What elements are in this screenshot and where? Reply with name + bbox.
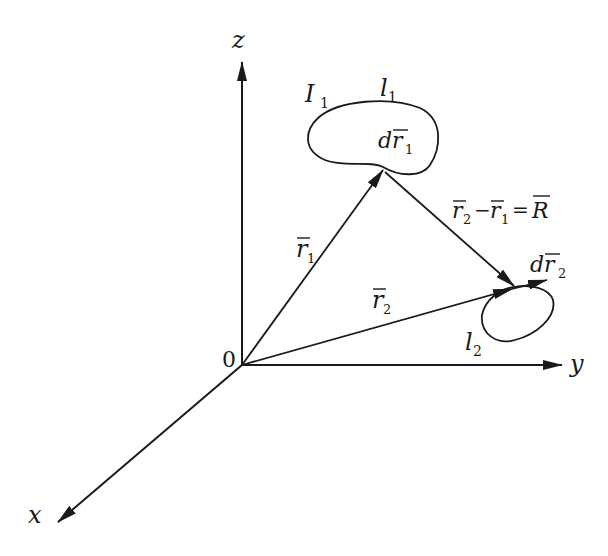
x-axis-label: x <box>28 501 42 529</box>
svg-text:1: 1 <box>501 212 509 227</box>
origin-label: 0 <box>222 347 236 372</box>
svg-text:l: l <box>380 74 388 102</box>
svg-text:dr: dr <box>530 252 556 277</box>
svg-text:=: = <box>512 198 529 222</box>
dr2-label: dr 2 <box>530 252 566 281</box>
r1-label: r 1 <box>296 235 315 266</box>
svg-text:R: R <box>531 198 549 223</box>
svg-text:2: 2 <box>558 266 566 281</box>
contour-l1-label: l 1 <box>380 74 397 105</box>
R-vector <box>385 172 514 286</box>
svg-text:2: 2 <box>383 302 391 317</box>
contour-l2-label: l 2 <box>465 328 482 359</box>
dr2-arrow <box>512 280 547 289</box>
svg-text:1: 1 <box>320 95 329 111</box>
z-axis-label: z <box>231 26 245 54</box>
svg-text:2: 2 <box>473 343 482 359</box>
svg-text:1: 1 <box>307 251 315 266</box>
dr1-label: dr 1 <box>378 128 413 157</box>
R-equation-label: r 2 − r 1 = R <box>452 196 550 227</box>
svg-text:1: 1 <box>388 89 397 105</box>
x-axis <box>58 365 242 522</box>
svg-text:−: − <box>474 198 491 222</box>
y-axis-label: y <box>569 350 584 378</box>
r2-label: r 2 <box>372 286 391 317</box>
loop-l1 <box>308 101 438 174</box>
svg-text:1: 1 <box>405 142 413 157</box>
svg-text:dr: dr <box>378 128 404 153</box>
r1-vector <box>242 170 383 365</box>
svg-text:2: 2 <box>463 212 471 227</box>
svg-text:I: I <box>304 80 315 108</box>
current-I1-label: I 1 <box>304 80 329 111</box>
svg-text:l: l <box>465 328 473 356</box>
vector-diagram: z y x 0 I 1 l 1 dr 1 dr 2 l 2 r 1 r <box>0 0 608 556</box>
